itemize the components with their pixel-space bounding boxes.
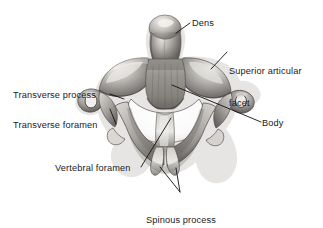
label-vertebral-foramen: Vertebral foramen xyxy=(55,163,131,174)
label-superior-articular-facet-line2: facet xyxy=(229,98,302,109)
dens-structure xyxy=(149,15,181,60)
anatomy-figure: Dens Superior articular facet Transverse… xyxy=(0,0,323,228)
label-dens: Dens xyxy=(192,18,214,29)
body-top-shadow xyxy=(147,59,184,70)
label-body: Body xyxy=(262,118,284,129)
spinous-highlight xyxy=(159,116,169,146)
label-spinous-process: Spinous process (bifid) xyxy=(119,194,243,228)
label-transverse-process: Transverse process xyxy=(13,90,96,101)
label-superior-articular-facet-line1: Superior articular xyxy=(229,66,302,77)
label-transverse-foramen: Transverse foramen xyxy=(13,120,98,131)
label-spinous-process-line1: Spinous process xyxy=(119,215,243,226)
dens-shading xyxy=(150,32,181,60)
vertebral-body xyxy=(146,59,186,109)
